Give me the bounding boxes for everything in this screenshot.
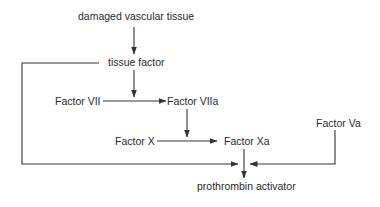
node-tissue-factor: tissue factor — [108, 56, 165, 68]
node-factor-x: Factor X — [115, 135, 155, 147]
node-prothrombin-activator: prothrombin activator — [197, 180, 296, 192]
node-factor-xa: Factor Xa — [224, 135, 270, 147]
coagulation-diagram: damaged vascular tissue tissue factor Fa… — [0, 0, 380, 207]
node-damaged-vascular-tissue: damaged vascular tissue — [78, 10, 194, 22]
node-factor-va: Factor Va — [316, 117, 361, 129]
node-factor-vii: Factor VII — [55, 95, 101, 107]
node-factor-viia: Factor VIIa — [167, 95, 218, 107]
arrow-tissue-factor-loop — [22, 63, 238, 164]
